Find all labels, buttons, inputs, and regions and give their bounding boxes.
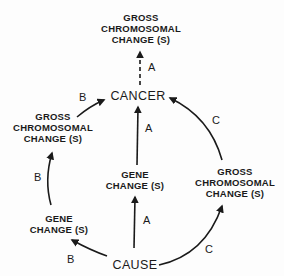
node-left-gene-change: GENE CHANGE (S) <box>24 213 94 235</box>
node-label: CANCER <box>108 89 168 103</box>
node-line: CHROMOSOMAL <box>96 23 186 34</box>
node-line: GROSS <box>96 12 186 23</box>
node-left-gross-chromosomal-change: GROSS CHROMOSOMAL CHANGE (S) <box>8 111 98 144</box>
edge-center-gene-to-cancer <box>137 107 138 165</box>
node-line: CHROMOSOMAL <box>190 177 280 188</box>
diagram-canvas: GROSS CHROMOSOMAL CHANGE (S) CANCER GROS… <box>0 0 284 276</box>
node-line: GENE <box>100 169 170 180</box>
edge-label-center-gene-to-cancer: A <box>145 122 152 134</box>
node-cancer: CANCER <box>108 89 168 103</box>
node-line: CHANGE (S) <box>8 133 98 144</box>
edge-cause-to-center-gene <box>134 197 135 248</box>
node-line: CHANGE (S) <box>96 34 186 45</box>
node-label: CAUSE <box>110 258 160 272</box>
node-line: GENE <box>24 213 94 224</box>
edge-label-cause-to-center-gene: A <box>143 214 150 226</box>
node-line: CHANGE (S) <box>100 180 170 191</box>
edge-label-right-gross-to-cancer: C <box>212 114 220 126</box>
node-line: CHROMOSOMAL <box>8 122 98 133</box>
edge-label-left-gross-to-cancer: B <box>79 91 86 103</box>
node-top-gross-chromosomal-change: GROSS CHROMOSOMAL CHANGE (S) <box>96 12 186 45</box>
edge-right-gross-to-cancer <box>170 98 222 160</box>
edge-cause-to-left-gene <box>72 240 107 256</box>
node-cause: CAUSE <box>110 258 160 272</box>
edge-label-cancer-to-top-gross: A <box>148 61 155 73</box>
edge-label-cause-to-right-gross: C <box>205 243 213 255</box>
node-line: CHANGE (S) <box>190 188 280 199</box>
edge-left-gene-to-left-gross <box>48 153 52 205</box>
node-center-gene-change: GENE CHANGE (S) <box>100 169 170 191</box>
edge-label-left-gene-to-left-gross: B <box>34 171 41 183</box>
node-line: GROSS <box>190 166 280 177</box>
edge-cause-to-right-gross <box>159 206 222 265</box>
node-line: GROSS <box>8 111 98 122</box>
node-line: CHANGE (S) <box>24 224 94 235</box>
edge-label-cause-to-left-gene: B <box>67 253 74 265</box>
node-right-gross-chromosomal-change: GROSS CHROMOSOMAL CHANGE (S) <box>190 166 280 199</box>
